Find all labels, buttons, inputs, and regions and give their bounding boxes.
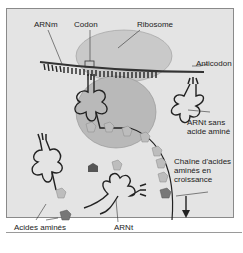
amino-acid-dark-left (60, 210, 71, 220)
label-trna-without-aa-1: ARNt sans (187, 118, 225, 127)
label-growing-chain-1: Chaîne d'acides (174, 157, 231, 166)
label-trna-without-aa-2: acide aminé (187, 127, 230, 136)
label-growing-chain-3: croissance (174, 175, 212, 184)
amino-acid-on-trna-left (56, 188, 66, 198)
free-amino-acid-dark (88, 163, 98, 172)
label-codon: Codon (74, 20, 98, 29)
bottom-divider (6, 232, 242, 233)
label-amino-acids: Acides aminés (14, 223, 66, 232)
anticodon-bars-center (140, 184, 146, 196)
label-anticodon: Anticodon (196, 59, 232, 68)
label-mrna: ARNm (34, 20, 58, 29)
anticodon-bars-right (188, 77, 198, 84)
label-trna: ARNt (114, 223, 133, 232)
trna-without-amino-acid (171, 84, 203, 123)
label-ribosome: Ribosome (137, 20, 173, 29)
anticodon-bars-left (38, 133, 46, 140)
trna-center (84, 174, 140, 214)
label-growing-chain-2: aminés en (174, 166, 211, 175)
trna-left (32, 140, 62, 190)
free-amino-acid-light (112, 160, 122, 170)
